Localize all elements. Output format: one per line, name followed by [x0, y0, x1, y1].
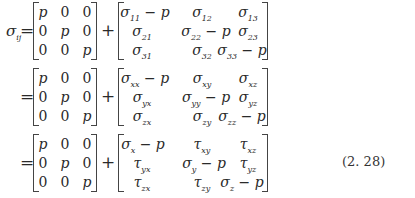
matrix-cell: p: [83, 108, 92, 124]
matrix-cell: σxz: [239, 70, 257, 89]
matrix-cell: 0: [39, 108, 48, 124]
matrix-cell: p: [61, 23, 70, 39]
matrix-cell: 0: [39, 23, 48, 39]
matrix-cell: σ23: [238, 23, 258, 42]
matrix-cell: σ33 − p: [217, 42, 266, 61]
matrix-cell: 0: [61, 42, 70, 58]
matrix-cell: σ12: [192, 4, 212, 23]
lhs-sigma-ij: σij: [6, 22, 21, 42]
matrix-cell: σxy: [193, 70, 212, 89]
matrix-cell: 0: [83, 155, 92, 171]
matrix-cell: σzy: [193, 108, 211, 127]
matrix-cell: 0: [39, 42, 48, 58]
plus-sign: +: [101, 86, 115, 106]
equation-line-1: σij = p 0 0 0 p 0 0 0 p + σ11 − p σ12 σ1…: [0, 0, 415, 62]
matrix-cell: τyz: [240, 155, 256, 174]
equation-number: (2. 28): [342, 154, 385, 169]
equation-line-3: = p 0 0 0 p 0 0 0 p + σx − p τxy τxz τyx…: [0, 132, 415, 194]
matrix-cell: p: [61, 155, 70, 171]
matrix-cell: 0: [61, 136, 70, 152]
pressure-matrix: p 0 0 0 p 0 0 0 p: [33, 68, 97, 126]
pressure-matrix: p 0 0 0 p 0 0 0 p: [33, 134, 97, 192]
matrix-cell: 0: [61, 70, 70, 86]
matrix-cell: p: [39, 136, 48, 152]
matrix-cell: σ21: [132, 23, 152, 42]
matrix-cell: p: [39, 70, 48, 86]
deviator-matrix: σxx − p σxy σxz σyx σyy − p σyz σzx σzy …: [118, 68, 268, 126]
matrix-cell: 0: [61, 174, 70, 190]
matrix-cell: σ32: [192, 42, 212, 61]
matrix-cell: 0: [39, 174, 48, 190]
matrix-cell: p: [83, 174, 92, 190]
matrix-cell: σyx: [133, 89, 152, 108]
matrix-cell: 0: [83, 23, 92, 39]
matrix-cell: σyz: [239, 89, 257, 108]
matrix-cell: σz − p: [220, 174, 263, 193]
matrix-cell: τzx: [134, 174, 150, 193]
matrix-cell: τyx: [134, 155, 151, 174]
matrix-cell: 0: [83, 70, 92, 86]
plus-sign: +: [101, 20, 115, 40]
matrix-cell: σx − p: [121, 136, 165, 155]
matrix-cell: 0: [83, 4, 92, 20]
matrix-cell: 0: [83, 136, 92, 152]
matrix-cell: 0: [61, 4, 70, 20]
plus-sign: +: [101, 152, 115, 172]
matrix-cell: σyy − p: [182, 89, 230, 108]
matrix-cell: σ11 − p: [120, 4, 169, 23]
deviator-matrix: σ11 − p σ12 σ13 σ21 σ22 − p σ23 σ31 σ32 …: [118, 2, 268, 60]
right-bracket: [91, 134, 97, 192]
matrix-cell: p: [39, 4, 48, 20]
matrix-cell: σ13: [238, 4, 258, 23]
matrix-cell: p: [83, 42, 92, 58]
matrix-cell: τzy: [194, 174, 210, 193]
matrix-cell: 0: [39, 155, 48, 171]
matrix-cell: σxx − p: [121, 70, 169, 89]
matrix-cell: 0: [83, 89, 92, 105]
right-bracket: [91, 68, 97, 126]
right-bracket: [91, 2, 97, 60]
matrix-cell: σ31: [132, 42, 152, 61]
matrix-cell: 0: [61, 108, 70, 124]
deviator-matrix: σx − p τxy τxz τyx σy − p τyz τzx τzy σz…: [118, 134, 268, 192]
matrix-cell: σzz − p: [218, 108, 266, 127]
matrix-cell: σzx: [133, 108, 151, 127]
matrix-cell: τxy: [194, 136, 211, 155]
matrix-cell: σy − p: [182, 155, 226, 174]
pressure-matrix: p 0 0 0 p 0 0 0 p: [33, 2, 97, 60]
lhs-symbol: σ: [6, 22, 16, 40]
equation-line-2: = p 0 0 0 p 0 0 0 p + σxx − p σxy σxz σy…: [0, 66, 415, 128]
matrix-cell: τxz: [240, 136, 256, 155]
matrix-cell: p: [61, 89, 70, 105]
matrix-cell: 0: [39, 89, 48, 105]
matrix-cell: σ22 − p: [181, 23, 230, 42]
